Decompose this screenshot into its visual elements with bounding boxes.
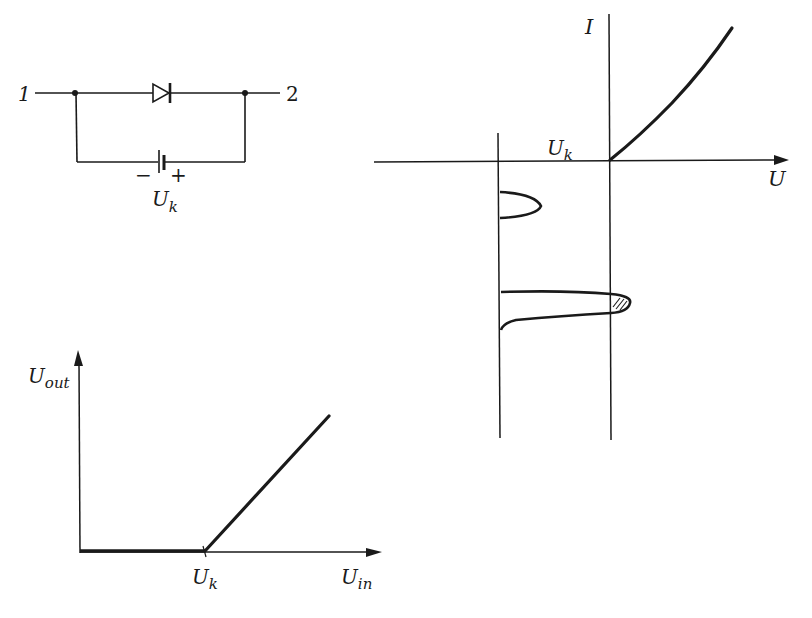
terminal-1-label: 1: [18, 82, 31, 106]
wire-branch-left: [76, 93, 77, 162]
node-left: [72, 90, 78, 96]
battery-icon: [159, 150, 164, 173]
output-rising-segment: [205, 416, 329, 551]
circuit-diagram: [35, 83, 280, 173]
uin-axis-arrow-icon: [366, 548, 382, 557]
u-axis-arrow-icon: [774, 155, 789, 165]
uk-threshold-label: Uk: [547, 136, 573, 164]
uout-axis: [79, 362, 80, 553]
diode-icon: [153, 83, 170, 103]
battery-plus-label: +: [170, 163, 187, 187]
forward-current-curve: [610, 28, 732, 160]
i-axis-label: I: [584, 15, 594, 39]
input-pulse-small: [500, 192, 541, 218]
uin-axis-label: Uin: [341, 565, 372, 593]
transfer-chart: [74, 350, 382, 557]
battery-voltage-label: Uk: [152, 187, 178, 216]
uout-axis-label: Uout: [28, 364, 71, 392]
uk-threshold-line: [498, 133, 500, 438]
diode-clipper-figure: 1 2 − + Uk I U Uk: [0, 0, 812, 618]
terminal-2-label: 2: [286, 82, 299, 106]
i-axis: [609, 14, 611, 440]
u-axis: [374, 160, 778, 162]
uout-axis-arrow-icon: [74, 350, 83, 366]
u-axis-label: U: [768, 167, 787, 191]
knee-uk-label: Uk: [192, 565, 218, 593]
iv-chart: [374, 14, 789, 440]
battery-minus-label: −: [135, 163, 152, 187]
